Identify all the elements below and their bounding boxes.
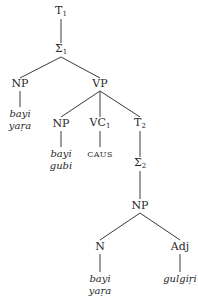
- node-n: N: [95, 241, 105, 253]
- leaf-adj: gulgiṛi: [163, 273, 197, 285]
- node-np-object: NP: [52, 118, 69, 130]
- leaf-np-subject: bayi yaṛa: [9, 108, 31, 132]
- node-np-subject: NP: [11, 78, 28, 90]
- node-vc1: VC1: [90, 117, 111, 132]
- edge-vp-t2: [100, 91, 140, 117]
- node-vp: VP: [92, 78, 107, 90]
- edge-sigma1-vp: [61, 57, 100, 78]
- node-t1: T1: [55, 5, 67, 20]
- node-np-embedded: NP: [131, 200, 148, 212]
- node-adj: Adj: [171, 241, 189, 253]
- node-sigma2: Σ2: [134, 157, 146, 172]
- leaf-caus: CAUS: [87, 150, 112, 159]
- leaf-np-object: bayi gubi: [50, 148, 72, 172]
- node-t2: T2: [134, 117, 146, 132]
- edge-sigma1-np: [20, 57, 61, 78]
- node-sigma1: Σ1: [55, 43, 67, 58]
- edge-vp-np: [61, 91, 100, 117]
- leaf-n: bayi yaṛa: [89, 273, 111, 297]
- edge-np-n: [100, 213, 140, 240]
- edge-np-adj: [140, 213, 180, 240]
